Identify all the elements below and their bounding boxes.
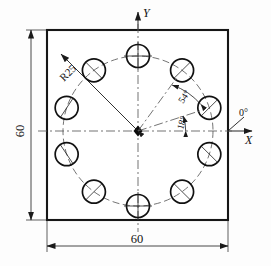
cad-drawing: Y X [0, 0, 271, 266]
technical-drawing-canvas: Y X [0, 0, 271, 266]
height-dimension: 60 [13, 30, 47, 220]
x-axis-label: X [244, 133, 253, 147]
width-dim-label: 60 [131, 232, 144, 246]
plate-outline [47, 30, 228, 220]
zero-degree-label: 0° [239, 107, 248, 118]
zero-degree-marker: 0° [228, 107, 248, 131]
y-axis-label: Y [143, 6, 151, 20]
zero-leader-line [228, 117, 244, 131]
height-dim-label: 60 [13, 125, 27, 138]
width-dimension: 60 [47, 220, 228, 252]
